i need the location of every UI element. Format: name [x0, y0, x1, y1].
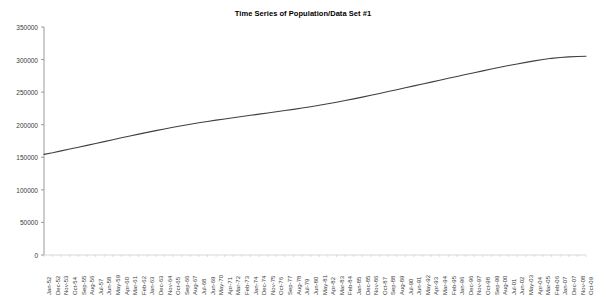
x-axis-tick-label: May-70: [218, 275, 224, 295]
y-axis-tick-label: 100000: [0, 186, 38, 193]
chart-axes: [41, 27, 586, 257]
x-axis-tick-label: Aug-00: [502, 276, 508, 295]
x-axis-tick-label: Sep-88: [390, 276, 396, 295]
x-axis-tick-label: Dec-96: [468, 276, 474, 295]
y-axis-tick-label: 150000: [0, 154, 38, 161]
x-axis-tick-label: Nov-08: [580, 276, 586, 295]
x-axis-tick-label: Dec-74: [261, 276, 267, 295]
x-axis-tick-label: Jul-79: [304, 279, 310, 295]
x-axis-tick-label: Dec-52: [55, 276, 61, 295]
x-axis-tick-label: Oct-87: [382, 277, 388, 295]
x-axis-tick-label: Feb-62: [141, 276, 147, 295]
x-axis-tick-label: Mar-61: [132, 276, 138, 295]
x-axis-tick-label: Mar-72: [235, 276, 241, 295]
x-axis-tick-label: Feb-95: [451, 276, 457, 295]
x-axis-tick-label: Jun-58: [106, 277, 112, 295]
x-axis-tick-label: Nov-86: [373, 276, 379, 295]
x-axis-tick-label: Apr-93: [433, 277, 439, 295]
x-axis-tick-label: Jan-52: [46, 277, 52, 295]
x-axis-tick-label: Jul-01: [511, 279, 517, 295]
x-axis-tick-label: Apr-71: [227, 277, 233, 295]
x-axis-tick-label: Apr-04: [537, 277, 543, 295]
x-axis-tick-label: Mar-94: [442, 276, 448, 295]
x-axis-tick-label: Jan-07: [562, 277, 568, 295]
y-axis-tick-label: 250000: [0, 89, 38, 96]
y-axis-tick-label: 0: [0, 252, 38, 259]
x-axis-tick-label: Jul-90: [408, 279, 414, 295]
x-axis-tick-label: Sep-77: [287, 276, 293, 295]
x-axis-tick-label: Nov-97: [476, 276, 482, 295]
y-axis-tick-label: 350000: [0, 24, 38, 31]
x-axis-tick-label: Apr-82: [330, 277, 336, 295]
chart-canvas: [0, 0, 606, 297]
x-axis-tick-label: Dec-07: [571, 276, 577, 295]
chart-series: [44, 56, 586, 154]
x-axis-tick-label: Jun-80: [313, 277, 319, 295]
x-axis-tick-label: Oct-76: [278, 277, 284, 295]
x-axis-tick-label: Aug-78: [296, 276, 302, 295]
x-axis-tick-label: Mar-83: [339, 276, 345, 295]
x-axis-tick-label: Oct-54: [72, 277, 78, 295]
chart-container: Time Series of Population/Data Set #1 35…: [0, 0, 606, 297]
x-axis-tick-label: Jan-74: [253, 277, 259, 295]
x-axis-tick-label: Aug-89: [399, 276, 405, 295]
x-axis-tick-label: Jul-68: [201, 279, 207, 295]
x-axis-tick-label: Jul-57: [98, 279, 104, 295]
x-axis-tick-label: Feb-84: [347, 276, 353, 295]
x-axis-tick-label: May-59: [115, 275, 121, 295]
x-axis-tick-label: Sep-55: [81, 276, 87, 295]
data-series-line: [44, 56, 586, 154]
y-axis-tick-label: 50000: [0, 219, 38, 226]
x-axis-tick-label: Oct-98: [485, 277, 491, 295]
x-axis-tick-label: Oct-09: [588, 277, 594, 295]
x-axis-tick-label: Feb-73: [244, 276, 250, 295]
x-axis-tick-label: Dec-85: [365, 276, 371, 295]
x-axis-tick-label: May-81: [322, 275, 328, 295]
x-axis-tick-label: Sep-66: [184, 276, 190, 295]
x-axis-tick-label: Nov-75: [270, 276, 276, 295]
x-axis-tick-label: Feb-06: [554, 276, 560, 295]
x-axis-tick-label: Nov-53: [63, 276, 69, 295]
x-axis-tick-label: Jan-63: [149, 277, 155, 295]
x-axis-tick-label: Aug-67: [192, 276, 198, 295]
y-axis-tick-label: 200000: [0, 121, 38, 128]
y-axis-tick-label: 300000: [0, 56, 38, 63]
x-axis-tick-label: Apr-60: [124, 277, 130, 295]
x-axis-tick-label: Dec-63: [158, 276, 164, 295]
x-axis-tick-label: Jun-02: [519, 277, 525, 295]
x-axis-tick-label: Jan-96: [459, 277, 465, 295]
x-axis-tick-label: Mar-05: [545, 276, 551, 295]
x-axis-tick-label: May-03: [528, 275, 534, 295]
x-axis-tick-label: Sep-99: [494, 276, 500, 295]
x-axis-tick-label: Oct-65: [175, 277, 181, 295]
x-axis-tick-label: Aug-56: [89, 276, 95, 295]
x-axis-tick-label: May-92: [425, 275, 431, 295]
x-axis-tick-label: Jan-85: [356, 277, 362, 295]
x-axis-tick-label: Jun-91: [416, 277, 422, 295]
x-axis-tick-label: Jun-69: [210, 277, 216, 295]
x-axis-tick-label: Nov-64: [167, 276, 173, 295]
